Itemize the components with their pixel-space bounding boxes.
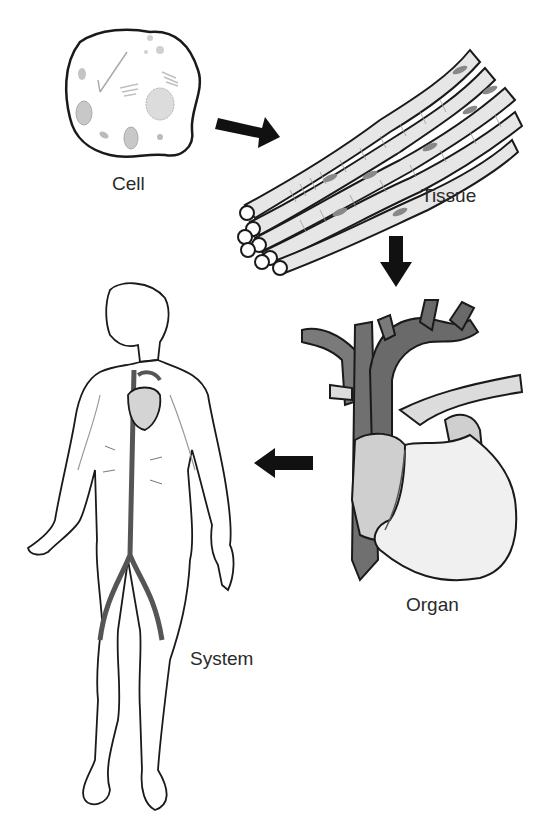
muscle-tissue-icon: [238, 50, 522, 275]
arrow-tissue-to-organ: [380, 236, 412, 287]
stage-label-organ: Organ: [406, 594, 459, 616]
arrow-cell-to-tissue: [215, 117, 280, 148]
diagram-artwork: [0, 0, 545, 825]
stage-label-tissue: Tissue: [421, 185, 476, 207]
cell-icon: [66, 30, 200, 157]
diagram-canvas: Cell Tissue Organ System: [0, 0, 545, 825]
heart-icon: [302, 300, 522, 580]
arrow-organ-to-system: [254, 448, 313, 478]
stage-label-cell: Cell: [112, 173, 145, 195]
stage-label-system: System: [190, 648, 253, 670]
human-circulatory-system-icon: [28, 283, 234, 810]
